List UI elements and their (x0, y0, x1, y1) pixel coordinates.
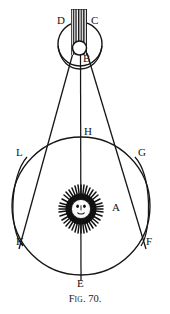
point-label-L: L (16, 147, 23, 158)
point-label-B: B (83, 53, 91, 64)
axis-line (81, 52, 82, 281)
caption-number: . 70. (83, 293, 101, 304)
figure-caption: FIG. 70. (0, 293, 170, 304)
point-label-F: F (146, 236, 152, 247)
point-label-E: E (77, 278, 84, 289)
point-label-K: K (16, 236, 24, 247)
point-label-A: A (112, 202, 120, 213)
sun-face-icon (59, 185, 103, 233)
point-label-H: H (84, 126, 92, 137)
point-label-C: C (91, 15, 99, 26)
point-label-G: G (138, 147, 146, 158)
point-label-D: D (57, 15, 65, 26)
caption-smallcaps: IG (74, 295, 83, 304)
figure-container: D C B H L G A K F E FIG. 70. (0, 0, 170, 314)
